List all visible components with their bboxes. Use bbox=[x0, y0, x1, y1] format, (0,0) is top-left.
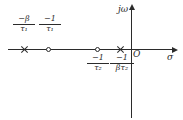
label-denominator: τ₁ bbox=[39, 25, 61, 33]
pole-zero-plane: σ jω O −β τ₁ −1 τ₁ −1 τ₂ −1 βτ₂ bbox=[0, 0, 183, 120]
origin-label: O bbox=[133, 50, 140, 59]
label-numerator: −1 bbox=[39, 15, 61, 23]
label-denominator: βτ₂ bbox=[110, 64, 134, 72]
jomega-axis-arrow-icon bbox=[129, 4, 135, 10]
zero-marker-one-over-tau1 bbox=[46, 47, 51, 52]
label-numerator: −β bbox=[13, 15, 35, 23]
pole-marker-beta-over-tau1 bbox=[20, 45, 29, 54]
label-zero-one-over-tau1: −1 τ₁ bbox=[39, 15, 61, 34]
label-pole-beta-over-tau1: −β τ₁ bbox=[13, 15, 35, 34]
label-numerator: −1 bbox=[87, 54, 109, 62]
label-zero-one-over-tau2: −1 τ₂ bbox=[87, 54, 109, 73]
sigma-axis-label: σ bbox=[167, 53, 173, 62]
label-numerator: −1 bbox=[110, 54, 134, 62]
jomega-axis-label: jω bbox=[118, 5, 128, 14]
label-denominator: τ₁ bbox=[13, 25, 35, 33]
zero-marker-one-over-tau2 bbox=[95, 47, 100, 52]
label-pole-one-over-beta-tau2: −1 βτ₂ bbox=[110, 54, 134, 73]
sigma-axis-line bbox=[8, 49, 174, 50]
label-denominator: τ₂ bbox=[87, 64, 109, 72]
